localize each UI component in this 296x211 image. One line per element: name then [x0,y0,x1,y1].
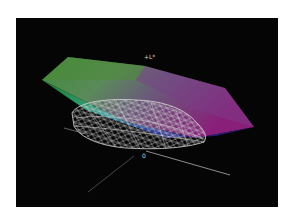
gamut-plot-panel: +L* 0 [16,18,278,207]
origin-label: 0 [142,153,146,159]
l-axis-label: +L* [144,54,155,60]
gamut-3d-plot [16,18,278,207]
